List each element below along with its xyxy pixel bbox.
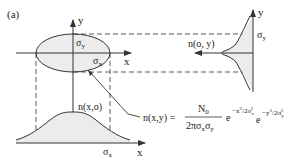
equation-numerator: N0: [198, 103, 209, 116]
bottom-sigma-x-label: σx: [103, 146, 112, 159]
exp1-power: −x2/2σx2: [232, 106, 254, 116]
right-y-axis-label: y: [258, 6, 264, 18]
exp2-base: e: [256, 114, 261, 125]
right-sigma-y-label: σy: [257, 29, 266, 42]
gaussian-equation: n(x,y) = N0 2πσxσy e −x2/2σx2 e −y2/2σy2: [143, 103, 284, 133]
x-axis-label: x: [124, 55, 130, 67]
exp2-power: −y2/2σy2: [262, 108, 284, 118]
right-profile-plot: y σy n(o, y): [188, 6, 266, 92]
n-o-y-label: n(o, y): [188, 38, 215, 50]
exp1-base: e: [226, 112, 231, 123]
equation-lhs: n(x,y) =: [143, 112, 176, 124]
bottom-x-axis-label: x: [137, 146, 143, 158]
y-axis-label: y: [78, 14, 84, 26]
bottom-profile-plot: n(x,o) σx x: [16, 101, 145, 159]
equation-denominator: 2πσxσy: [186, 120, 214, 133]
panel-label: (a): [7, 8, 20, 21]
n-x-o-label: n(x,o): [78, 101, 102, 113]
gaussian-distribution-diagram: (a) y x σy σx y σy n(o, y) n(x,o) σx x: [0, 0, 296, 163]
